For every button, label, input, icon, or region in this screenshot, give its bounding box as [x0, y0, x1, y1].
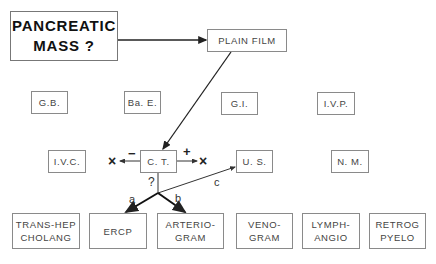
ivp-label: I.V.P. [324, 97, 349, 110]
gb-box: G.B. [31, 91, 68, 114]
arteriogram-box: ARTERIO- GRAM [157, 213, 224, 249]
plain-film-box: PLAIN FILM [207, 29, 287, 52]
ba-enema-label: Ba. E. [128, 96, 157, 109]
ivc-box: I.V.C. [48, 150, 86, 173]
venogram-box: VENO- GRAM [236, 213, 293, 249]
branch-c-label: c [214, 176, 220, 188]
pancreatic-mass-label: PANCREATIC MASS ? [12, 16, 116, 56]
us-box: U. S. [236, 150, 273, 173]
retrog-pyelo-box: RETROG PYELO [369, 213, 426, 249]
ercp-box: ERCP [89, 213, 147, 249]
ivp-box: I.V.P. [317, 92, 355, 115]
trans-hep-cholang-box: TRANS-HEP CHOLANG [12, 213, 80, 249]
retrog-pyelo-label: RETROG PYELO [375, 218, 419, 244]
gi-box: G.I. [221, 92, 258, 115]
lymphangio-label: LYMPH- ANGIO [312, 218, 351, 244]
negative-sign: − [128, 146, 136, 161]
ivc-label: I.V.C. [54, 155, 80, 168]
nm-box: N. M. [331, 150, 369, 173]
positive-end-x-icon: × [199, 153, 207, 169]
branch-b-label: b [175, 192, 181, 204]
question-mark-label: ? [148, 175, 155, 189]
nm-label: N. M. [337, 155, 363, 168]
lymphangio-box: LYMPH- ANGIO [302, 213, 360, 249]
branch-a-label: a [129, 193, 135, 205]
ercp-label: ERCP [104, 225, 133, 238]
gb-label: G.B. [39, 96, 60, 109]
arteriogram-label: ARTERIO- GRAM [165, 218, 215, 244]
us-label: U. S. [242, 155, 266, 168]
pancreatic-mass-box: PANCREATIC MASS ? [10, 11, 118, 61]
ct-box: C. T. [140, 150, 177, 173]
gi-label: G.I. [231, 97, 249, 110]
negative-end-x-icon: × [108, 153, 116, 169]
plain-film-label: PLAIN FILM [218, 34, 276, 47]
ct-label: C. T. [147, 155, 169, 168]
positive-sign: + [183, 144, 191, 159]
venogram-label: VENO- GRAM [248, 218, 281, 244]
ba-enema-box: Ba. E. [124, 91, 161, 114]
trans-hep-cholang-label: TRANS-HEP CHOLANG [16, 218, 76, 244]
